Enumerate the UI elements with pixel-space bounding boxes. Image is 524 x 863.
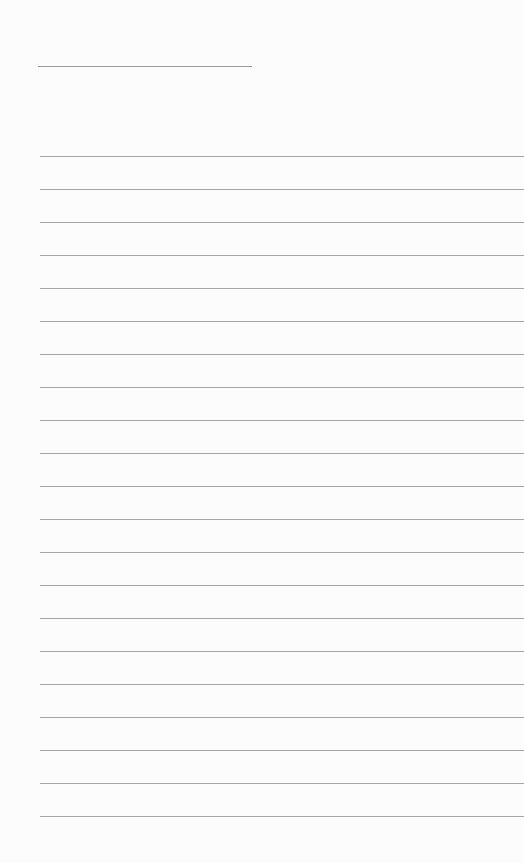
ruled-line	[40, 321, 524, 322]
ruled-line	[40, 618, 524, 619]
ruled-line	[40, 651, 524, 652]
ruled-line	[40, 750, 524, 751]
header-name-line	[38, 66, 252, 67]
ruled-line	[40, 519, 524, 520]
ruled-line	[40, 222, 524, 223]
ruled-line	[40, 420, 524, 421]
ruled-line	[40, 354, 524, 355]
ruled-line	[40, 717, 524, 718]
lined-paper-page	[0, 0, 524, 863]
ruled-line	[40, 783, 524, 784]
ruled-line	[40, 453, 524, 454]
ruled-line	[40, 684, 524, 685]
ruled-line	[40, 387, 524, 388]
ruled-line	[40, 816, 524, 817]
ruled-line	[40, 189, 524, 190]
ruled-line	[40, 552, 524, 553]
ruled-line	[40, 156, 524, 157]
ruled-line	[40, 486, 524, 487]
ruled-line	[40, 288, 524, 289]
ruled-line	[40, 585, 524, 586]
ruled-line	[40, 255, 524, 256]
